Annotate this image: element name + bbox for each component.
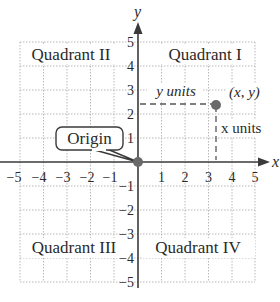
y-axis-arrow-icon xyxy=(134,22,143,34)
svg-text:3: 3 xyxy=(205,170,212,185)
svg-text:4: 4 xyxy=(127,59,134,74)
svg-text:4: 4 xyxy=(229,170,236,185)
quadrant-1-label: Quadrant I xyxy=(168,45,242,64)
svg-text:−1: −1 xyxy=(103,170,118,185)
svg-text:−3: −3 xyxy=(56,170,71,185)
coordinate-plane: x y −5 −4 −3 −2 −1 1 2 3 4 5 5 4 3 2 1 −… xyxy=(0,0,280,302)
point-projections xyxy=(140,104,216,160)
quadrant-2-label: Quadrant II xyxy=(32,45,111,64)
svg-text:−4: −4 xyxy=(119,251,134,266)
x-axis-arrow-icon xyxy=(258,158,270,167)
svg-text:5: 5 xyxy=(252,170,259,185)
quadrant-4-label: Quadrant IV xyxy=(155,238,241,257)
svg-text:−2: −2 xyxy=(80,170,95,185)
svg-text:−5: −5 xyxy=(7,170,22,185)
origin-marker xyxy=(133,157,143,167)
quadrant-3-label: Quadrant III xyxy=(32,238,117,257)
y-units-label: y units xyxy=(154,83,196,99)
svg-text:2: 2 xyxy=(127,107,134,122)
x-units-label: x units xyxy=(221,120,262,136)
svg-text:−1: −1 xyxy=(119,179,134,194)
svg-text:−4: −4 xyxy=(32,170,47,185)
point-label: (x, y) xyxy=(229,84,260,101)
svg-text:2: 2 xyxy=(182,170,189,185)
svg-text:−5: −5 xyxy=(119,275,134,290)
svg-text:1: 1 xyxy=(127,131,134,146)
svg-text:3: 3 xyxy=(127,83,134,98)
svg-text:−3: −3 xyxy=(119,227,134,242)
x-axis-label: x xyxy=(271,153,279,170)
y-axis-label: y xyxy=(132,3,142,21)
point-marker xyxy=(211,100,221,110)
svg-text:5: 5 xyxy=(127,35,134,50)
origin-callout: Origin xyxy=(56,127,138,162)
svg-text:−2: −2 xyxy=(119,203,134,218)
svg-text:1: 1 xyxy=(158,170,165,185)
y-axis xyxy=(134,22,143,288)
origin-label: Origin xyxy=(67,129,112,148)
